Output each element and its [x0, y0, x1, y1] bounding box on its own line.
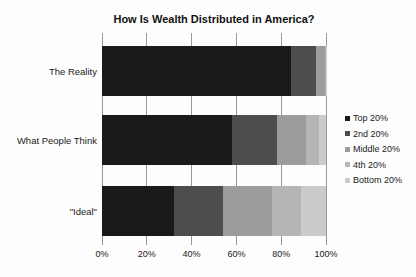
bar-segment-4th-20- [272, 186, 301, 236]
plot-area [102, 33, 326, 245]
legend-item-top-20-: Top 20% [345, 113, 402, 123]
bar-segment-2nd-20- [174, 186, 223, 236]
legend-label: Middle 20% [353, 144, 400, 154]
category-label: What People Think [17, 135, 97, 146]
legend-swatch-icon [345, 147, 350, 152]
bar-segment-top-20- [102, 186, 174, 236]
legend-item-4th-20-: 4th 20% [345, 160, 402, 170]
bar-segment-top-20- [102, 115, 232, 165]
x-tick-label: 80% [259, 249, 303, 259]
x-tick-label: 0% [80, 249, 124, 259]
bar-segment-4th-20- [306, 115, 319, 165]
bar-ideal [102, 186, 326, 236]
category-label: "Ideal" [70, 206, 97, 217]
bar-segment-middle-20- [277, 115, 306, 165]
bar-reality [102, 46, 326, 96]
x-tick-label: 20% [125, 249, 169, 259]
bar-segment-bottom-20- [319, 115, 326, 165]
legend-swatch-icon [345, 178, 350, 183]
x-tick-label: 40% [170, 249, 214, 259]
category-label: The Reality [49, 66, 97, 77]
legend-label: Top 20% [353, 113, 388, 123]
bar-segment-top-20- [102, 46, 291, 96]
legend-swatch-icon [345, 162, 350, 167]
legend-swatch-icon [345, 131, 350, 136]
bar-segment-middle-20- [223, 186, 272, 236]
legend-swatch-icon [345, 116, 350, 121]
legend: Top 20%2nd 20%Middle 20%4th 20%Bottom 20… [345, 113, 402, 191]
x-tick-label: 60% [214, 249, 258, 259]
wealth-distribution-chart: How Is Wealth Distributed in America? Th… [0, 0, 416, 277]
bar-what-people-think [102, 115, 326, 165]
legend-item-bottom-20-: Bottom 20% [345, 175, 402, 185]
x-tick-label: 100% [304, 249, 348, 259]
bar-segment-2nd-20- [232, 115, 277, 165]
bar-segment-middle-20- [316, 46, 325, 96]
legend-label: Bottom 20% [353, 175, 402, 185]
bar-segment-2nd-20- [291, 46, 316, 96]
chart-title: How Is Wealth Distributed in America? [102, 13, 326, 25]
bar-segment-bottom-20- [301, 186, 326, 236]
legend-item-middle-20-: Middle 20% [345, 144, 402, 154]
legend-item-2nd-20-: 2nd 20% [345, 129, 402, 139]
legend-label: 2nd 20% [353, 129, 389, 139]
legend-label: 4th 20% [353, 160, 386, 170]
